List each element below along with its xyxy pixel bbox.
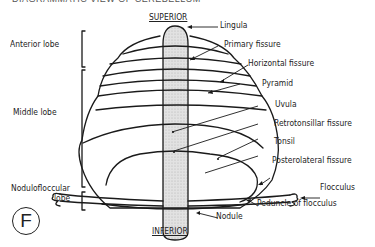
bracket-nodulofloccular (82, 192, 85, 210)
uvula-label: Uvula (275, 99, 297, 109)
lingula-label: Lingula (220, 20, 247, 30)
superior-label: SUPERIOR (149, 12, 187, 22)
posterolateral-fissure-label: Posterolateral fissure (272, 155, 352, 165)
flocculus-label: Flocculus (320, 182, 355, 192)
bracket-anterior (82, 31, 85, 67)
middle-lobe-label: Middle lobe (13, 107, 57, 117)
panel-letter-badge: F (12, 207, 40, 235)
nodulofloccular-lobe-label-line1: Nodulofloccular (11, 183, 70, 193)
primary-fissure-label: Primary fissure (224, 39, 281, 49)
tonsil-label: Tonsil (274, 136, 295, 146)
panel-letter: F (20, 210, 32, 232)
peduncle-left-upper (60, 194, 163, 201)
peduncle-of-flocculus-label: Peduncle of flocculus (257, 198, 337, 208)
anterior-lobe-label: Anterior lobe (10, 39, 59, 49)
horizontal-fissure-label: Horizontal fissure (248, 58, 314, 68)
retrotonsillar-fissure-label: Retrotonsillar fissure (274, 118, 352, 128)
nodulofloccular-lobe-label-line2: lobe (54, 193, 70, 203)
pyramid-label: Pyramid (262, 78, 293, 88)
inferior-label: INFERIOR (152, 226, 188, 236)
nodule-label: Nodule (216, 211, 243, 221)
